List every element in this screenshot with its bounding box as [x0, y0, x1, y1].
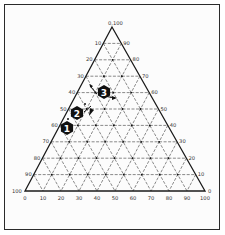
bottom-axis-label: 90: [184, 195, 191, 201]
right-corner-label: 0: [208, 188, 211, 194]
grid-line: [115, 109, 159, 191]
grid-node: [112, 59, 114, 61]
marker-1: 1: [61, 121, 73, 135]
grid-node: [158, 141, 160, 143]
marker-2: 2: [71, 106, 83, 120]
grid-node: [104, 141, 106, 143]
grid-node: [104, 108, 106, 110]
marker-1-label: 1: [64, 124, 70, 134]
right-axis-label: 90: [123, 40, 130, 46]
grid-node: [159, 174, 161, 176]
grid-node: [77, 125, 79, 127]
right-axis-label: 10: [198, 171, 205, 177]
grid-node: [114, 157, 116, 159]
marker-3-label: 3: [101, 88, 107, 98]
grid-line: [187, 175, 196, 191]
bottom-axis-label: 60: [130, 195, 137, 201]
grid-node: [121, 75, 123, 77]
grid-node: [95, 125, 97, 127]
right-axis-labels: 908070605040302010: [123, 40, 204, 177]
grid-node: [122, 141, 124, 143]
grid-node: [140, 108, 142, 110]
left-axis-labels: 102030405060708090: [25, 40, 101, 177]
grid-node: [113, 125, 115, 127]
apex-label: 0,100: [108, 20, 123, 26]
grid-node: [51, 174, 53, 176]
grid-line: [43, 43, 121, 191]
bottom-axis-label: 10: [40, 195, 47, 201]
grid-line: [86, 76, 151, 191]
left-corner-label: 100: [12, 188, 22, 194]
grid-node: [69, 174, 71, 176]
left-axis-label: 20: [86, 56, 93, 62]
grid-node: [87, 174, 89, 176]
right-axis-label: 50: [161, 106, 168, 112]
bottom-axis-label: 40: [94, 195, 101, 201]
grid-node: [112, 92, 114, 94]
grid-node: [177, 174, 179, 176]
grid-node: [132, 157, 134, 159]
grid-node: [68, 141, 70, 143]
grid-line: [69, 109, 116, 191]
grid-line: [103, 43, 187, 191]
grid-node: [103, 75, 105, 77]
grid-node: [150, 157, 152, 159]
grid-node: [141, 174, 143, 176]
left-axis-label: 80: [34, 155, 41, 161]
grid-node: [130, 92, 132, 94]
left-axis-label: 30: [77, 73, 84, 79]
right-axis-label: 70: [142, 73, 149, 79]
grid-node: [105, 174, 107, 176]
right-axis-label: 60: [151, 89, 158, 95]
grid-node: [168, 157, 170, 159]
left-axis-label: 90: [25, 171, 32, 177]
bottom-axis-label: 50: [112, 195, 119, 201]
bottom-axis-label: 100: [200, 195, 210, 201]
left-axis-label: 70: [42, 138, 49, 144]
grid-node: [149, 125, 151, 127]
grid-node: [78, 157, 80, 159]
marker-2-label: 2: [74, 109, 80, 119]
grid-node: [122, 108, 124, 110]
left-axis-label: 10: [95, 40, 102, 46]
bottom-axis-label: 0: [23, 195, 26, 201]
left-axis-label: 50: [60, 106, 67, 112]
grid-node: [86, 141, 88, 143]
left-axis-label: 40: [69, 89, 76, 95]
grid-node: [123, 174, 125, 176]
bottom-axis-label: 30: [76, 195, 83, 201]
right-axis-label: 30: [179, 138, 186, 144]
bottom-axis-labels: 0102030405060708090100: [23, 195, 210, 201]
grid-node: [96, 157, 98, 159]
bottom-axis-label: 20: [58, 195, 65, 201]
right-axis-label: 20: [188, 155, 195, 161]
grid-line: [34, 175, 43, 191]
grid-node: [60, 157, 62, 159]
grid-node: [131, 125, 133, 127]
bottom-axis-label: 80: [166, 195, 173, 201]
right-axis-label: 80: [133, 56, 140, 62]
left-axis-label: 60: [51, 122, 58, 128]
ternary-diagram: 0,100 102030405060708090 100 90807060504…: [0, 0, 225, 235]
bottom-axis-label: 70: [148, 195, 155, 201]
right-axis-label: 40: [170, 122, 177, 128]
grid-node: [140, 141, 142, 143]
grid-lines: [34, 43, 196, 191]
